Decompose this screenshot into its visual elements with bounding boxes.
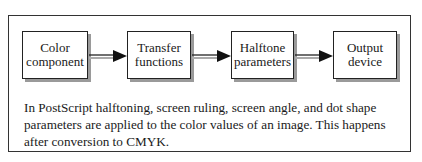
diagram-caption: In PostScript halftoning, screen ruling,… bbox=[24, 99, 409, 150]
box-label-line1: Halftone bbox=[240, 40, 285, 55]
box-transfer-functions: Transferfunctions bbox=[127, 31, 191, 79]
box-label-line1: Output bbox=[347, 40, 383, 55]
box-label-line1: Color bbox=[40, 40, 70, 55]
arrow-icon bbox=[89, 49, 127, 63]
arrow-icon bbox=[192, 49, 231, 63]
box-halftone-parameters: Halftoneparameters bbox=[231, 31, 294, 79]
box-label-line2: component bbox=[26, 54, 84, 69]
box-color-component: Colorcomponent bbox=[22, 31, 88, 79]
arrow-icon bbox=[295, 49, 333, 63]
box-output-device: Outputdevice bbox=[333, 31, 397, 79]
box-label-line2: parameters bbox=[234, 54, 291, 69]
box-label-line1: Transfer bbox=[137, 40, 181, 55]
box-label-line2: functions bbox=[135, 54, 183, 69]
box-label-line2: device bbox=[348, 54, 382, 69]
